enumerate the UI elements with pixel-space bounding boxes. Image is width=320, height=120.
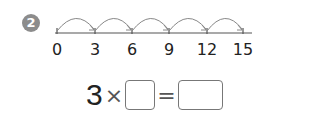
tick-label: 6	[127, 40, 137, 59]
tick-label: 15	[233, 40, 253, 59]
answer-box-product[interactable]	[178, 80, 223, 110]
tick-label: 3	[90, 40, 100, 59]
tick-label: 12	[197, 40, 217, 59]
tick-label: 9	[164, 40, 174, 59]
multiplication-equation: 3 × =	[86, 78, 223, 112]
answer-box-multiplier[interactable]	[125, 80, 155, 110]
equals-symbol: =	[157, 83, 175, 108]
factor-text: 3	[86, 78, 103, 112]
times-symbol: ×	[105, 83, 123, 108]
tick-label: 0	[52, 40, 62, 59]
